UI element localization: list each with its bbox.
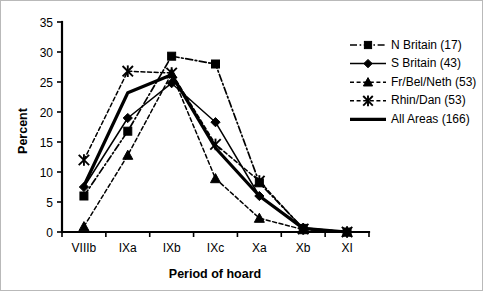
legend-item[interactable]: All Areas (166) <box>350 112 470 126</box>
data-point-square <box>168 52 176 60</box>
legend-item-label: Rhin/Dan (53) <box>391 93 466 107</box>
x-axis-ticks: VIIIbIXaIXbIXcXaXbXI <box>62 232 369 255</box>
series-line <box>84 75 347 232</box>
data-point-square <box>124 127 132 135</box>
series-group <box>79 79 351 237</box>
y-tick-label: 15 <box>40 136 54 150</box>
chart-figure: 05101520253035 VIIIbIXaIXbIXcXaXbXI Perc… <box>0 0 483 291</box>
data-point-square <box>212 60 220 68</box>
x-tick-label: Xa <box>252 241 267 255</box>
data-point-triangle <box>79 222 89 231</box>
legend-item[interactable]: S Britain (43) <box>350 56 461 70</box>
legend-item[interactable]: Rhin/Dan (53) <box>350 93 466 107</box>
y-tick-label: 0 <box>46 226 53 240</box>
x-tick-label: XI <box>341 241 352 255</box>
legend-item-label: N Britain (17) <box>391 38 462 52</box>
x-tick-label: Xb <box>296 241 311 255</box>
data-point-x-star <box>79 154 89 166</box>
x-tick-label: IXa <box>119 241 137 255</box>
chart-legend: N Britain (17)S Britain (43)Fr/Bel/Neth … <box>350 38 476 126</box>
series-line <box>84 71 347 232</box>
data-point-square <box>364 41 371 48</box>
legend-item[interactable]: N Britain (17) <box>350 38 462 52</box>
series-group <box>84 75 347 232</box>
data-point-triangle <box>211 174 221 183</box>
y-axis-title: Percent <box>16 107 30 154</box>
series-group <box>79 65 353 237</box>
data-point-square <box>80 192 88 200</box>
y-tick-label: 5 <box>46 196 53 210</box>
x-tick-label: IXb <box>163 241 181 255</box>
y-tick-label: 10 <box>40 166 54 180</box>
data-point-triangle <box>123 150 133 159</box>
x-tick-label: IXc <box>207 241 224 255</box>
y-tick-label: 35 <box>40 16 54 30</box>
x-tick-label: VIIIb <box>72 241 97 255</box>
series-line <box>84 74 347 232</box>
y-tick-label: 25 <box>40 76 54 90</box>
y-tick-label: 30 <box>40 46 54 60</box>
x-axis-title: Period of hoard <box>169 267 261 281</box>
y-axis-ticks: 05101520253035 <box>40 16 62 240</box>
legend-item-label: Fr/Bel/Neth (53) <box>391 75 476 89</box>
series-layer <box>79 52 353 238</box>
y-tick-label: 20 <box>40 106 54 120</box>
series-group <box>79 69 352 237</box>
legend-item-label: All Areas (166) <box>391 112 470 126</box>
data-point-diamond <box>364 59 372 67</box>
legend-item-label: S Britain (43) <box>391 56 461 70</box>
line-chart: 05101520253035 VIIIbIXaIXbIXcXaXbXI Perc… <box>1 1 483 291</box>
legend-item[interactable]: Fr/Bel/Neth (53) <box>350 75 476 89</box>
